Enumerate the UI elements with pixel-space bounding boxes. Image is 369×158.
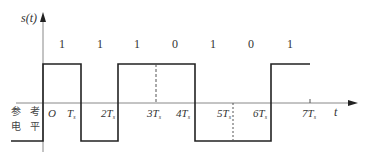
tick-sub: s [265,114,267,120]
tick-label-3ts: 3Ts [147,108,161,120]
tick-text: 3T [147,107,159,119]
tick-text: 2T [101,107,113,119]
tick-text: 6T [253,107,265,119]
tick-sub: s [314,114,316,120]
time-axis-arrow-icon [348,100,358,106]
x-axis-label: t [334,106,337,118]
tick-sub: s [229,114,231,120]
bit-label-1: 1 [59,38,65,50]
tick-sub: s [73,114,75,120]
binary-waveform-diagram: s(t) t 1 1 1 0 1 0 1 O Ts 2Ts 3Ts 4Ts 5T… [0,0,369,158]
tick-label-7ts: 7Ts [302,108,316,120]
bit-label-4: 0 [172,38,178,50]
tick-text: 4T [176,107,188,119]
tick-sub: s [159,114,161,120]
origin-label: O [48,108,56,119]
bit-label-5: 1 [210,38,216,50]
bit-label-3: 1 [134,38,140,50]
tick-sub: s [113,114,115,120]
reference-label-line1: 参 考 [11,107,43,117]
tick-label-5ts: 5Ts [217,108,231,120]
tick-text: 5T [217,107,229,119]
tick-label-4ts: 4Ts [176,108,190,120]
bit-label-7: 1 [287,38,293,50]
tick-text: 7T [302,107,314,119]
tick-sub: s [188,114,190,120]
waveform-svg [0,0,369,158]
tick-label-6ts: 6Ts [253,108,267,120]
reference-label-line2: 电 平 [11,122,43,132]
tick-label-2ts: 2Ts [101,108,115,120]
tick-label-ts: Ts [67,108,75,120]
bit-label-2: 1 [97,38,103,50]
bit-label-6: 0 [248,38,254,50]
amplitude-axis-arrow-icon [40,12,46,22]
y-axis-label: s(t) [21,12,37,24]
